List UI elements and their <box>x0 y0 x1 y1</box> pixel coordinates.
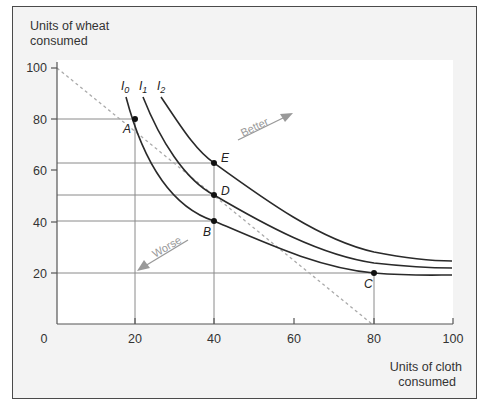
point-label-c: C <box>364 277 373 291</box>
x-tick-labels: 0 20 40 60 80 100 <box>41 332 464 346</box>
point-a <box>132 116 138 122</box>
x-tick-20: 20 <box>128 332 142 346</box>
point-c <box>371 270 377 276</box>
y-axis-title-line2: consumed <box>30 34 88 48</box>
x-axis-title-line1: Units of cloth <box>390 360 462 374</box>
point-label-e: E <box>221 151 230 165</box>
y-tick-100: 100 <box>26 61 47 75</box>
indifference-curve-chart: Units of wheat consumed 100 80 60 40 <box>0 0 486 409</box>
y-tick-80: 80 <box>33 113 47 127</box>
point-e <box>211 160 217 166</box>
point-label-a: A <box>122 122 131 136</box>
x-tick-40: 40 <box>207 332 221 346</box>
point-d <box>211 192 217 198</box>
y-tick-60: 60 <box>33 164 47 178</box>
x-tick-80: 80 <box>367 332 381 346</box>
point-label-b: B <box>203 225 211 239</box>
y-axis-title-line1: Units of wheat <box>30 19 110 33</box>
x-tick-100: 100 <box>443 332 464 346</box>
y-tick-labels: 100 80 60 40 20 <box>26 61 47 281</box>
x-axis-title-line2: consumed <box>398 375 456 389</box>
point-label-d: D <box>221 184 230 198</box>
x-tick-60: 60 <box>287 332 301 346</box>
y-tick-20: 20 <box>33 267 47 281</box>
y-tick-40: 40 <box>33 216 47 230</box>
point-b <box>211 218 217 224</box>
x-tick-0: 0 <box>41 332 48 346</box>
